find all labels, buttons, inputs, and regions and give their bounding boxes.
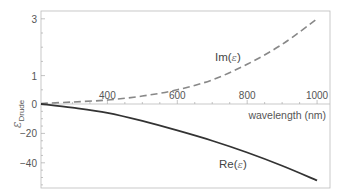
y-axis-ticks: [41, 19, 45, 185]
x-axis-ticks: [55, 100, 317, 104]
x-tick-label: 800: [239, 90, 256, 101]
x-tick-labels: 4006008001000: [99, 90, 329, 101]
svg-text:εDrude: εDrude: [10, 99, 26, 128]
re-label-prefix: Re(: [219, 158, 238, 170]
y-tick-label: 0: [31, 99, 37, 110]
re-label-close: ): [243, 158, 247, 170]
x-axis-title: wavelength (nm): [247, 109, 326, 121]
y-axis-title: εDrude: [10, 99, 26, 128]
y-tick-label: −20: [20, 128, 37, 139]
y-tick-label: −40: [20, 158, 37, 169]
re-epsilon-label: Re(ε): [219, 158, 247, 170]
x-tick-label: 600: [169, 90, 186, 101]
y-tick-label: 1: [31, 71, 37, 82]
im-label-prefix: Im(: [215, 51, 232, 63]
y-axis-title-subscript: Drude: [17, 99, 26, 121]
im-label-close: ): [237, 51, 241, 63]
x-tick-label: 1000: [306, 90, 329, 101]
y-tick-label: 3: [31, 14, 37, 25]
y-tick-labels: 310−20−40: [20, 14, 37, 169]
chart: 4006008001000 310−20−40 wavelength (nm) …: [0, 0, 340, 195]
im-epsilon-label: Im(ε): [215, 51, 241, 63]
